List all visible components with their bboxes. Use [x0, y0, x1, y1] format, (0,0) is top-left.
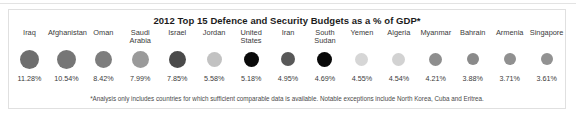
country-label: Israel [159, 29, 196, 47]
percent-value: 7.99% [130, 74, 150, 83]
value-bubble[interactable] [57, 50, 76, 69]
chart-panel: 2012 Top 15 Defence and Security Budgets… [8, 9, 566, 109]
bubble-slot [417, 47, 454, 71]
percent-value: 3.88% [463, 74, 483, 83]
percent-value: 10.54% [54, 74, 78, 83]
bubble-slot [528, 47, 565, 71]
percent-value: 4.69% [315, 74, 335, 83]
value-bubble[interactable] [169, 51, 186, 68]
value-bubble[interactable] [429, 53, 442, 66]
chart-column[interactable]: Jordan5.58% [196, 29, 233, 87]
chart-column[interactable]: Armenia3.71% [491, 29, 528, 87]
bubble-slot [196, 47, 233, 71]
bubble-slot [307, 47, 344, 71]
percent-value: 4.54% [389, 74, 409, 83]
percent-value: 7.85% [167, 74, 187, 83]
chart-column[interactable]: Bahrain3.88% [454, 29, 491, 87]
value-bubble[interactable] [244, 52, 259, 67]
percent-value: 3.61% [536, 74, 556, 83]
chart-column[interactable]: Iran4.95% [270, 29, 307, 87]
bubble-slot [11, 47, 48, 71]
country-label: Iraq [11, 29, 48, 47]
percent-value: 8.42% [93, 74, 113, 83]
bubble-chart-plot: Iraq11.28%Afghanistan10.54%Oman8.42%Saud… [11, 29, 565, 87]
bubble-slot [85, 47, 122, 71]
country-label: Bahrain [454, 29, 491, 47]
chart-footnote: *Analysis only includes countries for wh… [9, 95, 565, 103]
chart-column[interactable]: Afghanistan10.54% [48, 29, 85, 87]
percent-value: 4.21% [426, 74, 446, 83]
country-label: Iran [270, 29, 307, 47]
chart-column[interactable]: Myanmar4.21% [417, 29, 454, 87]
value-bubble[interactable] [392, 53, 405, 66]
bubble-slot [454, 47, 491, 71]
value-bubble[interactable] [355, 53, 368, 66]
bubble-slot [122, 47, 159, 71]
country-label: Singapore [528, 29, 565, 47]
chart-column[interactable]: South Sudan4.69% [307, 29, 344, 87]
bubble-slot [380, 47, 417, 71]
percent-value: 11.28% [18, 74, 42, 83]
country-label: Armenia [491, 29, 528, 47]
value-bubble[interactable] [132, 51, 149, 68]
top-divider [0, 3, 576, 4]
chart-column[interactable]: Singapore3.61% [528, 29, 565, 87]
chart-column[interactable]: Algeria4.54% [380, 29, 417, 87]
bubble-slot [159, 47, 196, 71]
country-label: Saudi Arabia [122, 29, 159, 47]
percent-value: 3.71% [499, 74, 519, 83]
value-bubble[interactable] [207, 52, 222, 67]
percent-value: 4.55% [352, 74, 372, 83]
value-bubble[interactable] [95, 51, 112, 68]
chart-column[interactable]: Yemen4.55% [343, 29, 380, 87]
value-bubble[interactable] [467, 53, 479, 65]
country-label: Afghanistan [48, 29, 85, 47]
country-label: South Sudan [307, 29, 344, 47]
chart-column[interactable]: Oman8.42% [85, 29, 122, 87]
bubble-slot [233, 47, 270, 71]
bubble-slot [48, 47, 85, 71]
value-bubble[interactable] [281, 52, 295, 66]
percent-value: 4.95% [278, 74, 298, 83]
chart-title: 2012 Top 15 Defence and Security Budgets… [9, 15, 565, 26]
bubble-slot [343, 47, 380, 71]
value-bubble[interactable] [20, 50, 39, 69]
country-label: Yemen [343, 29, 380, 47]
bubble-slot [270, 47, 307, 71]
country-label: Jordan [196, 29, 233, 47]
country-label: Algeria [380, 29, 417, 47]
chart-column[interactable]: Saudi Arabia7.99% [122, 29, 159, 87]
chart-column[interactable]: United States5.18% [233, 29, 270, 87]
country-label: United States [233, 29, 270, 47]
value-bubble[interactable] [504, 53, 516, 65]
value-bubble[interactable] [541, 53, 553, 65]
value-bubble[interactable] [317, 52, 332, 67]
chart-column[interactable]: Israel7.85% [159, 29, 196, 87]
country-label: Myanmar [417, 29, 454, 47]
percent-value: 5.18% [241, 74, 261, 83]
chart-column[interactable]: Iraq11.28% [11, 29, 48, 87]
percent-value: 5.58% [204, 74, 224, 83]
bubble-slot [491, 47, 528, 71]
country-label: Oman [85, 29, 122, 47]
